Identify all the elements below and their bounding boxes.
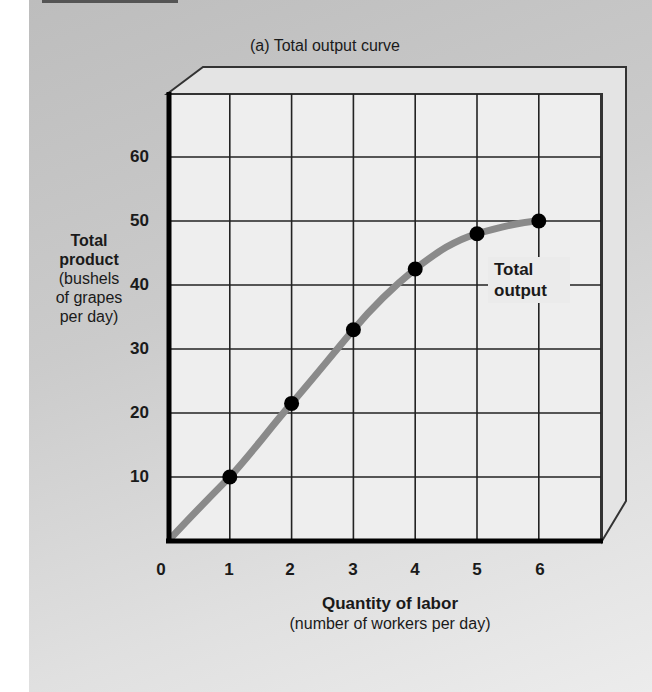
y-tick-20: 20 <box>109 403 149 423</box>
curve-annotation-line-1: Total <box>494 259 564 280</box>
x-axis-label-title: Quantity of labor <box>240 594 540 614</box>
y-tick-10: 10 <box>109 467 149 487</box>
y-axis-label-line-1: Total <box>34 231 144 250</box>
y-tick-30: 30 <box>109 339 149 359</box>
x-tick-3: 3 <box>338 560 368 580</box>
curve-annotation-line-2: output <box>494 280 564 301</box>
y-tick-60: 60 <box>109 147 149 167</box>
y-axis-label-line-2: product <box>34 250 144 269</box>
marker-4 <box>408 262 423 277</box>
curve-annotation: Total output <box>488 257 570 303</box>
y-axis-label: Total product (bushels of grapes per day… <box>34 231 144 326</box>
marker-3 <box>346 322 361 337</box>
marker-5 <box>470 226 485 241</box>
y-tick-50: 50 <box>109 211 149 231</box>
y-axis-label-line-5: per day) <box>34 307 144 326</box>
x-tick-4: 4 <box>400 560 430 580</box>
x-axis-label-sub: (number of workers per day) <box>240 614 540 634</box>
y-axis-label-line-4: of grapes <box>34 288 144 307</box>
x-tick-1: 1 <box>214 560 244 580</box>
marker-2 <box>284 396 299 411</box>
marker-1 <box>222 470 237 485</box>
plot-area <box>0 0 652 692</box>
x-tick-5: 5 <box>462 560 492 580</box>
x-tick-0: 0 <box>146 560 176 580</box>
marker-6 <box>531 214 546 229</box>
x-tick-6: 6 <box>525 560 555 580</box>
x-tick-2: 2 <box>275 560 305 580</box>
y-axis-label-line-3: (bushels <box>34 269 144 288</box>
x-axis-label: Quantity of labor (number of workers per… <box>240 594 540 634</box>
